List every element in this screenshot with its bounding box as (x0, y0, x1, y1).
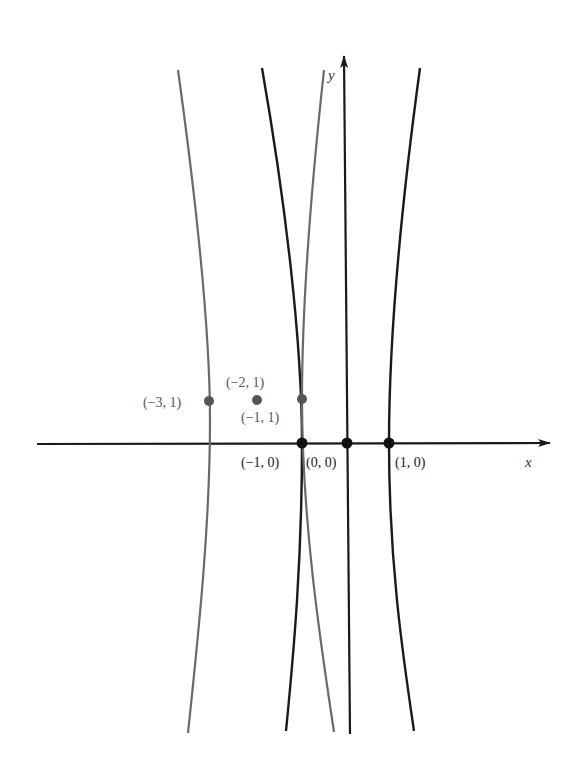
y-axis-label: y (326, 67, 335, 83)
label-minus2-1: (−2, 1) (226, 375, 265, 391)
point-minus1-1 (297, 394, 307, 404)
black-curve-through-minus1-0 (262, 68, 302, 731)
point-minus2-1 (252, 395, 262, 405)
x-axis (37, 443, 550, 444)
diagram-canvas: (−3, 1) (−2, 1) (−1, 1) (−1, 0) (0, 0) (… (0, 0, 579, 780)
point-minus1-0 (297, 438, 308, 449)
label-minus1-0: (−1, 0) (241, 455, 280, 471)
point-minus3-1 (204, 396, 214, 406)
label-minus1-1: (−1, 1) (241, 410, 280, 426)
x-axis-label: x (524, 454, 532, 470)
black-curve-through-1-0 (389, 68, 420, 731)
point-1-0 (384, 438, 395, 449)
label-1-0: (1, 0) (395, 455, 426, 471)
label-0-0: (0, 0) (306, 455, 337, 471)
y-axis (344, 56, 350, 734)
point-0-0 (342, 438, 353, 449)
label-minus3-1: (−3, 1) (143, 395, 182, 411)
gray-curve-through-minus1-1 (302, 70, 334, 732)
